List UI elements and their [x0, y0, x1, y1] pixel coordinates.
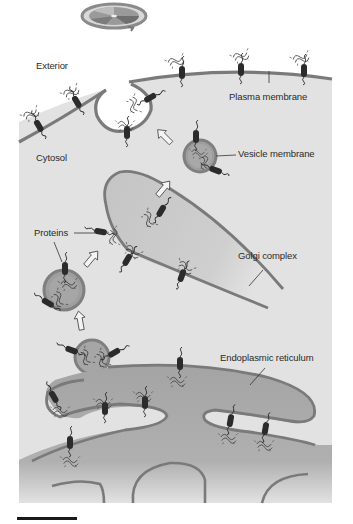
rotating-disc-icon	[82, 4, 146, 31]
secretion-diagram: Exterior Cytosol Plasma membrane Vesicle…	[0, 0, 353, 524]
fusing-vesicle-membrane	[96, 84, 151, 131]
label-golgi-complex: Golgi complex	[238, 250, 297, 261]
label-vesicle-membrane: Vesicle membrane	[238, 148, 315, 159]
label-plasma-membrane: Plasma membrane	[229, 91, 307, 102]
label-endoplasmic-reticulum: Endoplasmic reticulum	[220, 352, 313, 363]
scale-bar	[17, 517, 77, 520]
label-exterior: Exterior	[36, 60, 68, 71]
label-proteins: Proteins	[34, 227, 68, 238]
label-cytosol: Cytosol	[36, 152, 67, 163]
